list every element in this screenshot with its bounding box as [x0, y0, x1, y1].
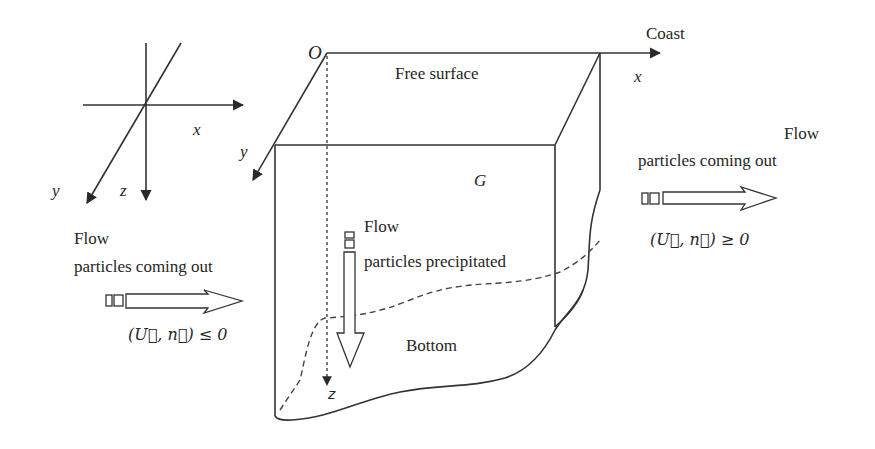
left-flow-line2: particles coming out: [74, 258, 213, 275]
box-right-top-edge: [555, 53, 600, 145]
domain-box: [253, 53, 660, 420]
left-flow-line1: Flow: [74, 230, 109, 247]
inset-z-label: z: [120, 182, 127, 199]
axes-inset: [83, 43, 243, 203]
left-flow-condition: (U⃗, n⃗) ≤ 0: [128, 327, 227, 343]
right-flow-arrow: [642, 187, 776, 210]
free-surface-label: Free surface: [395, 65, 479, 82]
inset-x-label: x: [193, 121, 201, 138]
dashed-lines: [280, 56, 600, 410]
box-z-label: z: [328, 387, 335, 401]
precipitation-arrow: [337, 232, 364, 367]
right-flow-line1: Flow: [784, 125, 819, 142]
box-right-side-bottom: [555, 290, 583, 327]
left-flow-arrow: [106, 290, 242, 313]
right-flow-condition: (U⃗, n⃗) ≥ 0: [650, 232, 749, 248]
origin-label: O: [308, 43, 322, 62]
inset-y-axis: [87, 43, 181, 203]
precipitation-line2: particles precipitated: [364, 253, 506, 270]
precipitation-line1: Flow: [364, 218, 399, 235]
box-y-axis: [253, 53, 327, 180]
inset-y-label: y: [52, 182, 60, 199]
box-bottom-contour: [275, 190, 600, 420]
bottom-label: Bottom: [406, 337, 457, 354]
domain-g-label: G: [474, 172, 486, 189]
box-x-label: x: [634, 68, 642, 85]
coast-label: Coast: [646, 25, 685, 42]
box-y-label: y: [240, 143, 248, 160]
right-flow-line2: particles coming out: [638, 152, 777, 169]
